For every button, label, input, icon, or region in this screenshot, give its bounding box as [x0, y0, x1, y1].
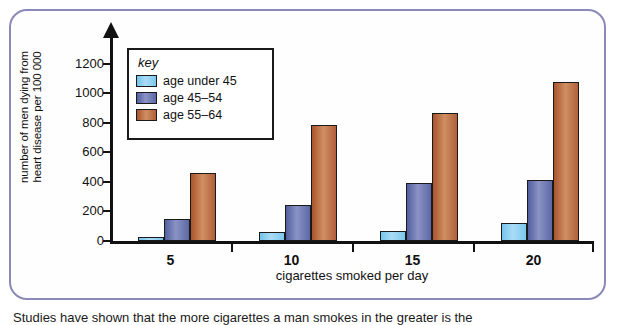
- x-tick-label-10: 10: [262, 252, 322, 268]
- y-tick-label-0: 0: [58, 233, 104, 248]
- bar-5-series-1: [164, 219, 190, 241]
- bar-15-series-1: [406, 183, 432, 241]
- y-axis-title: number of men dying from heart disease p…: [18, 17, 58, 217]
- y-axis-arrow-icon: [103, 22, 119, 38]
- x-tick-label-5: 5: [141, 252, 201, 268]
- y-tick-1200: [103, 63, 112, 65]
- legend-swatch-age-under-45: [136, 75, 157, 87]
- legend-label-age-55-64: age 55–64: [163, 108, 222, 122]
- y-axis-title-line-1: number of men dying from: [18, 17, 31, 217]
- bar-5-series-0: [138, 237, 164, 241]
- x-axis-separator-end: [592, 244, 594, 252]
- bar-10-series-0: [259, 232, 285, 241]
- bar-15-series-0: [380, 231, 406, 241]
- legend-label-age-45-54: age 45–54: [163, 91, 222, 105]
- x-axis-separator-2: [352, 244, 354, 252]
- x-axis-title: cigarettes smoked per day: [110, 268, 594, 283]
- y-tick-label-1200: 1200: [58, 56, 104, 71]
- y-tick-label-200: 200: [58, 203, 104, 218]
- bar-15-series-2: [432, 113, 458, 241]
- bar-20-series-2: [553, 82, 579, 241]
- y-tick-1000: [103, 92, 112, 94]
- x-axis-separator-1: [231, 244, 233, 252]
- y-tick-400: [103, 181, 112, 183]
- legend-swatch-age-55-64: [136, 109, 157, 121]
- y-tick-800: [103, 122, 112, 124]
- x-tick-label-20: 20: [504, 252, 564, 268]
- legend: key age under 45 age 45–54 age 55–64: [127, 48, 274, 140]
- y-tick-label-600: 600: [58, 144, 104, 159]
- x-axis-separator-3: [473, 244, 475, 252]
- legend-item-0: age under 45: [136, 74, 265, 88]
- y-tick-label-1000: 1000: [58, 85, 104, 100]
- bar-10-series-1: [285, 205, 311, 241]
- legend-label-age-under-45: age under 45: [163, 74, 237, 88]
- y-tick-600: [103, 151, 112, 153]
- legend-title: key: [138, 55, 265, 70]
- bar-20-series-0: [501, 223, 527, 241]
- bar-5-series-2: [190, 173, 216, 241]
- y-tick-label-800: 800: [58, 115, 104, 130]
- legend-swatch-age-45-54: [136, 92, 157, 104]
- legend-item-2: age 55–64: [136, 108, 265, 122]
- y-tick-200: [103, 210, 112, 212]
- bar-10-series-2: [311, 125, 337, 241]
- y-tick-label-400: 400: [58, 174, 104, 189]
- y-axis-title-line-2: heart disease per 100 000: [31, 17, 44, 217]
- y-tick-0: [103, 240, 112, 242]
- figure-caption: Studies have shown that the more cigaret…: [13, 310, 613, 325]
- x-tick-label-15: 15: [383, 252, 443, 268]
- legend-item-1: age 45–54: [136, 91, 265, 105]
- bar-20-series-1: [527, 180, 553, 241]
